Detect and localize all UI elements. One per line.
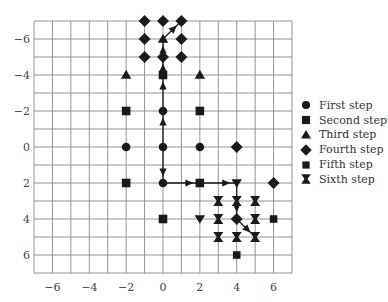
- diamond-marker: [175, 33, 187, 45]
- legend-label: Fifth step: [319, 158, 373, 171]
- y-tick-label: −4: [14, 69, 30, 82]
- diamond-marker-icon: [299, 143, 313, 157]
- small-square-marker: [270, 215, 278, 223]
- diamond-marker: [139, 15, 151, 27]
- diamond-marker: [157, 51, 169, 63]
- arrowhead-icon: [159, 82, 166, 90]
- legend-item-fifth: Fifth step: [299, 157, 387, 172]
- triangle-marker: [195, 215, 205, 224]
- circle-marker: [159, 143, 168, 152]
- small-square-marker-icon: [299, 158, 313, 172]
- x-tick-label: −6: [44, 281, 60, 294]
- bowtie-marker-icon: [299, 172, 313, 186]
- arrowhead-icon: [159, 64, 166, 72]
- arrowhead-icon: [159, 118, 166, 126]
- square-marker-icon: [299, 113, 313, 127]
- square-marker: [196, 107, 205, 116]
- diamond-marker: [231, 141, 243, 153]
- x-tick-label: −2: [118, 281, 134, 294]
- legend-item-fourth: Fourth step: [299, 142, 387, 157]
- square-marker: [122, 179, 131, 188]
- x-tick-label: 4: [233, 281, 240, 294]
- legend-item-sixth: Sixth step: [299, 172, 387, 187]
- x-tick-label: 0: [160, 281, 167, 294]
- legend-item-second: Second step: [299, 113, 387, 128]
- legend-label: Second step: [319, 114, 387, 127]
- x-tick-label: −4: [81, 281, 97, 294]
- y-tick-label: 2: [23, 177, 30, 190]
- diamond-marker: [139, 51, 151, 63]
- arrowhead-icon: [185, 179, 193, 186]
- circle-marker: [159, 107, 168, 116]
- legend-item-first: First step: [299, 98, 387, 113]
- legend-item-third: Third step: [299, 128, 387, 143]
- x-tick-label: 2: [196, 281, 203, 294]
- arrowhead-icon: [222, 179, 230, 186]
- diamond-marker: [268, 177, 280, 189]
- triangle-marker-icon: [299, 128, 313, 142]
- square-marker: [122, 107, 131, 116]
- square-marker: [159, 215, 168, 224]
- y-tick-label: 0: [23, 141, 30, 154]
- y-tick-label: −6: [14, 33, 30, 46]
- x-tick-label: 6: [270, 281, 277, 294]
- arrowhead-icon: [159, 169, 166, 177]
- legend-label: First step: [319, 99, 373, 112]
- circle-marker: [159, 179, 168, 188]
- small-square-marker: [233, 251, 241, 259]
- diamond-marker: [157, 15, 169, 27]
- triangle-marker: [195, 70, 205, 79]
- legend-label: Sixth step: [319, 173, 375, 186]
- circle-marker: [122, 143, 131, 152]
- legend-label: Third step: [319, 128, 376, 141]
- square-marker: [196, 179, 205, 188]
- legend-label: Fourth step: [319, 143, 384, 156]
- diamond-marker: [175, 51, 187, 63]
- diamond-marker: [139, 33, 151, 45]
- triangle-marker: [121, 70, 131, 79]
- y-tick-label: 6: [23, 249, 30, 262]
- circle-marker-icon: [299, 98, 313, 112]
- circle-marker: [196, 143, 205, 152]
- legend: First step Second step Third step Fourth…: [299, 98, 387, 187]
- square-marker: [159, 71, 168, 80]
- y-tick-label: 4: [23, 213, 30, 226]
- y-tick-label: −2: [14, 105, 30, 118]
